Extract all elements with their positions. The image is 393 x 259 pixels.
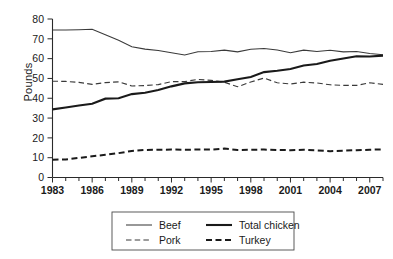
x-tick-label: 2001 [279, 184, 303, 196]
line-chart-plot: 01020304050607080 1983198619891992199519… [0, 0, 393, 259]
x-tick-label: 1989 [120, 184, 144, 196]
x-tick-label: 1983 [41, 184, 65, 196]
x-axis-tick-group: 198319861989199219951998200120042007 [41, 178, 383, 197]
legend-label-turkey: Turkey [239, 234, 271, 246]
y-tick-label: 70 [32, 33, 44, 45]
chart-figure: Pounds 01020304050607080 198319861989199… [0, 0, 393, 259]
legend-label-total-chicken: Total chicken [239, 219, 300, 231]
data-series-group [53, 29, 384, 159]
y-axis-tick-group: 01020304050607080 [32, 13, 52, 184]
chart-legend: BeefTotal chickenPorkTurkey [112, 212, 300, 250]
y-tick-label: 20 [32, 132, 44, 144]
x-tick-label: 1998 [239, 184, 263, 196]
series-line-beef [53, 29, 384, 55]
y-tick-label: 0 [38, 171, 44, 183]
legend-label-pork: Pork [159, 234, 181, 246]
x-tick-label: 2007 [358, 184, 382, 196]
y-tick-label: 10 [32, 151, 44, 163]
x-tick-label: 1986 [80, 184, 104, 196]
x-tick-label: 1992 [160, 184, 184, 196]
legend-label-beef: Beef [159, 219, 181, 231]
y-tick-label: 80 [32, 13, 44, 25]
y-tick-label: 40 [32, 92, 44, 104]
x-tick-label: 2004 [318, 184, 342, 196]
y-tick-label: 50 [32, 72, 44, 84]
x-tick-label: 1995 [199, 184, 223, 196]
y-tick-label: 60 [32, 52, 44, 64]
series-line-turkey [53, 149, 384, 160]
series-line-total-chicken [53, 56, 384, 110]
y-tick-label: 30 [32, 112, 44, 124]
